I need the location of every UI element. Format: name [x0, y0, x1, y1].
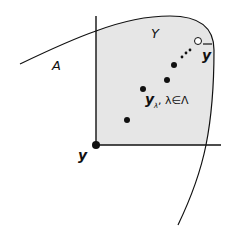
label-sequence-index: , λ∈Λ — [158, 94, 189, 107]
limit-point-open — [195, 38, 202, 45]
sequence-point-1 — [124, 117, 130, 123]
ellipsis-dot-3 — [189, 49, 192, 52]
origin-point — [92, 141, 100, 149]
label-bar-y: y — [202, 47, 212, 63]
label-Y: Y — [151, 26, 160, 41]
label-A: A — [51, 58, 61, 73]
label-origin-y: y — [78, 147, 88, 163]
sequence-point-4 — [171, 62, 177, 68]
ellipsis-dot-2 — [185, 52, 188, 55]
ellipsis-dot-1 — [181, 56, 184, 59]
sequence-point-3 — [164, 77, 170, 83]
diagram-canvas: A Y y y λ , λ∈Λ y — [0, 0, 234, 236]
